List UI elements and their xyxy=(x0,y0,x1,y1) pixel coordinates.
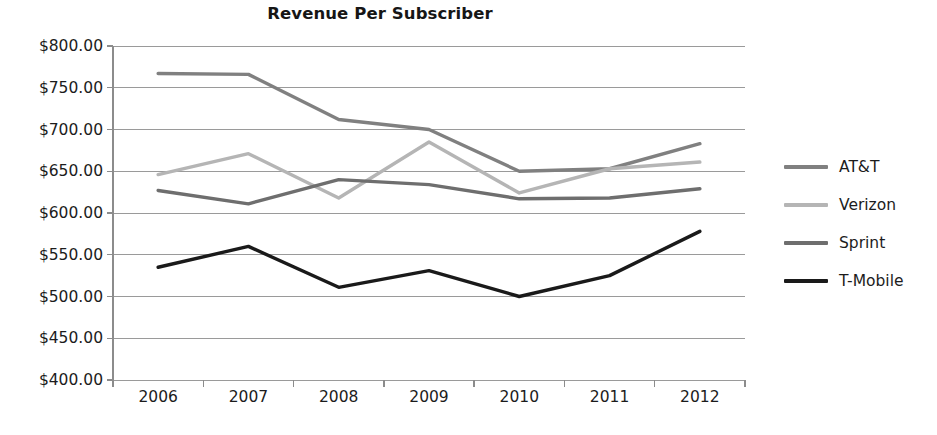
revenue-per-subscriber-chart: Revenue Per Subscriber $800.00$750.00$70… xyxy=(0,0,937,435)
y-tick-label: $650.00 xyxy=(39,162,103,180)
x-tick-label: 2008 xyxy=(319,388,358,406)
legend-item[interactable]: Sprint xyxy=(784,224,934,262)
x-tick-label: 2012 xyxy=(680,388,719,406)
legend-swatch-icon xyxy=(784,279,828,283)
legend-item[interactable]: AT&T xyxy=(784,148,934,186)
series-line-verizon xyxy=(158,142,700,198)
y-tick-label: $750.00 xyxy=(39,79,103,97)
legend-item[interactable]: Verizon xyxy=(784,186,934,224)
chart-legend: AT&TVerizonSprintT-Mobile xyxy=(784,148,934,300)
y-tick-label: $600.00 xyxy=(39,204,103,222)
legend-label: Verizon xyxy=(839,196,896,214)
x-tick-label: 2006 xyxy=(138,388,177,406)
y-tick-label: $700.00 xyxy=(39,121,103,139)
y-tick-label: $450.00 xyxy=(39,329,103,347)
series-line-sprint xyxy=(158,180,700,204)
plot-area xyxy=(113,46,745,380)
legend-label: AT&T xyxy=(839,158,879,176)
x-axis: 2006200720082009201020112012 xyxy=(113,388,745,414)
y-tick-label: $800.00 xyxy=(39,37,103,55)
series-line-t-mobile xyxy=(158,231,700,296)
x-tick-label: 2011 xyxy=(590,388,629,406)
y-tick-label: $400.00 xyxy=(39,371,103,389)
legend-swatch-icon xyxy=(784,165,828,169)
y-tick-label: $500.00 xyxy=(39,288,103,306)
y-axis: $800.00$750.00$700.00$650.00$600.00$550.… xyxy=(0,46,103,380)
series-lines xyxy=(113,46,745,380)
x-tick-label: 2007 xyxy=(229,388,268,406)
y-tick-label: $550.00 xyxy=(39,246,103,264)
legend-label: Sprint xyxy=(839,234,885,252)
legend-item[interactable]: T-Mobile xyxy=(784,262,934,300)
legend-swatch-icon xyxy=(784,241,828,245)
x-tick-label: 2009 xyxy=(409,388,448,406)
legend-label: T-Mobile xyxy=(839,272,903,290)
chart-title: Revenue Per Subscriber xyxy=(0,4,760,23)
x-tick-label: 2010 xyxy=(500,388,539,406)
legend-swatch-icon xyxy=(784,203,828,207)
